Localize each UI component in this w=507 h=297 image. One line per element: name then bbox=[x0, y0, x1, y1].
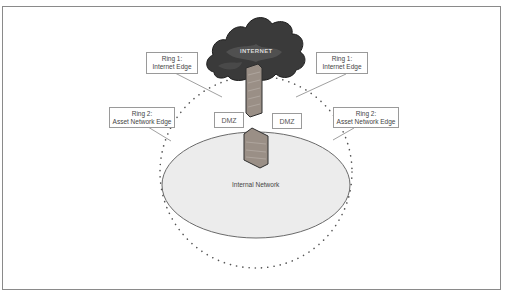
ring2-right-line1: Ring 2: bbox=[334, 110, 398, 118]
network-diagram bbox=[0, 0, 507, 297]
internet-label: INTERNET bbox=[240, 48, 272, 54]
ring2-left-label: Ring 2: Asset Network Edge bbox=[109, 107, 175, 128]
dmz-left-label: DMZ bbox=[214, 112, 244, 128]
ring1-left-line1: Ring 1: bbox=[147, 55, 197, 63]
dmz-right-label: DMZ bbox=[272, 113, 302, 129]
ring1-right-line2: Internet Edge bbox=[317, 63, 367, 71]
ring2-left-line1: Ring 2: bbox=[110, 110, 174, 118]
ring1-right-line1: Ring 1: bbox=[317, 55, 367, 63]
ring2-right-line2: Asset Network Edge bbox=[334, 118, 398, 126]
leader-line-ring1-right bbox=[296, 74, 346, 97]
firewall-bottom-icon bbox=[244, 128, 268, 168]
ring2-right-label: Ring 2: Asset Network Edge bbox=[333, 107, 399, 128]
ring1-left-line2: Internet Edge bbox=[147, 63, 197, 71]
ring1-left-label: Ring 1: Internet Edge bbox=[146, 52, 198, 74]
internal-network-label: Internal Network bbox=[232, 181, 279, 188]
leader-line-ring2-right bbox=[333, 128, 354, 140]
ring2-left-line2: Asset Network Edge bbox=[110, 118, 174, 126]
ring1-right-label: Ring 1: Internet Edge bbox=[316, 52, 368, 74]
firewall-top-icon bbox=[246, 64, 262, 117]
